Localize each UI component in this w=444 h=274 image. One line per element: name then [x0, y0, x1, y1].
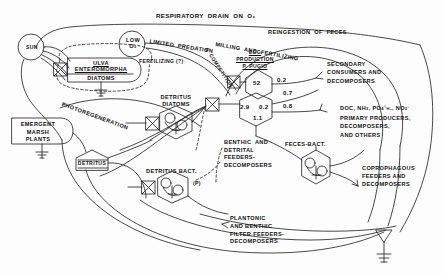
label-secondary-consumers: SECONDARY CONSUMERS AND DECOMPOSERS [327, 60, 381, 85]
path-benthic-dashed-leader [216, 148, 222, 182]
label-detritus: DETRITUS [76, 160, 108, 166]
flow-value-52: 52 [253, 79, 261, 87]
label-detritus-diatoms: DETRITUS DIATOMS [152, 94, 200, 107]
path-marsh-to-detritus [73, 133, 86, 152]
label-feces-bact: FECES-BACT. [285, 141, 326, 148]
flow-value-0p7: 0.7 [283, 89, 293, 97]
label-reingestion-of-feces: REINGESTION OF FECES [268, 29, 347, 36]
label-primary-producers: PRIMARY PRODUCERS, DECOMPOSERS, AND OTHE… [340, 114, 411, 139]
path-detritus-out [108, 163, 146, 198]
path-out-0p8 [272, 110, 320, 112]
gate-detritus-diatoms [146, 117, 159, 130]
symbol-feces-loop-a [305, 158, 315, 168]
path-out-0p7 [272, 90, 318, 104]
label-ulva-diatoms: DIATOMS [70, 75, 132, 82]
label-p-pugio: P. PUGIO [232, 63, 278, 69]
label-nutrient-formula: DOC, NH3, PO4≡H₂, NO3- [340, 104, 409, 112]
arrow-plantonic [222, 222, 229, 228]
path-bact-out [188, 196, 228, 214]
symbol-diatom-loop-a [165, 113, 175, 123]
label-enteromorpha: ENTEROMORPHA [70, 66, 132, 73]
label-fertilizing: FERTILIZING (?) [139, 58, 184, 64]
label-benthic-detrital-feeders: BENTHIC AND DETRITAL FEEDERS- DECOMPOSER… [224, 139, 272, 169]
path-in-fan-dashed [196, 108, 205, 150]
arrow-primary-producers [320, 104, 327, 112]
energy-flow-diagram: RESPIRATORY DRAIN ON O₂ LOW O₂ LIMITED P… [0, 0, 444, 274]
symbol-bact-loop-a [161, 178, 171, 188]
symbol-feces-cross [312, 166, 320, 179]
path-feces-out [330, 150, 364, 166]
arrow-secondary-consumers [316, 72, 323, 79]
flow-value-0p2-center: 0.2 [259, 103, 269, 111]
label-respiratory-drain: RESPIRATORY DRAIN ON O₂ [156, 12, 256, 20]
flow-value-0p8: 0.8 [283, 102, 293, 110]
label-emergent-marsh-plants: EMERGENT MARSH PLANTS [14, 121, 62, 144]
flow-value-0p2-upper: 0.2 [277, 76, 287, 84]
label-egg: EGG [232, 49, 278, 55]
label-coprophagous-feeders: COPROPHAGOUS FEEDERS AND DECOMPOSERS [362, 164, 415, 188]
label-plantonic-filter-feeders: PLANTONIC AND BENTHIC FILTER FEEDERS- DE… [230, 215, 284, 246]
path-sun-to-producer-a [44, 47, 70, 61]
path-feces-copro [330, 172, 358, 186]
heat-sink-marsh [36, 144, 48, 158]
label-detritus-bact-note: (P) [193, 180, 201, 186]
heat-sink-ulva [95, 82, 107, 96]
flow-value-2p9: 2.9 [240, 103, 250, 111]
path-detritus-up [108, 140, 152, 158]
symbol-bact-cross [168, 186, 176, 198]
label-egg-production: PRODUCTION [232, 56, 278, 62]
path-sun-to-producer-c [42, 55, 67, 74]
label-detritus-bact: DETRITUS BACT. [146, 168, 197, 175]
symbol-bact-loop-b [173, 185, 183, 195]
flow-value-1p1: 1.1 [253, 114, 263, 122]
label-sun: SUN [22, 44, 42, 50]
label-low-o2: LOW O₂ [123, 37, 143, 50]
gate-central-hex [206, 98, 219, 111]
symbol-feces-loop-b [317, 166, 327, 176]
